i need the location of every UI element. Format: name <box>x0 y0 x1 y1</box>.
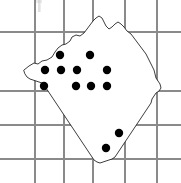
record-dot <box>102 144 110 152</box>
map-canvas <box>0 0 181 183</box>
record-dot <box>86 51 94 59</box>
record-dot <box>103 82 111 90</box>
record-dot <box>56 51 64 59</box>
record-dot <box>115 129 123 137</box>
record-dot <box>73 66 81 74</box>
record-dot <box>40 82 48 90</box>
record-dot <box>87 82 95 90</box>
top-smudge-artifact-cap <box>36 0 42 3</box>
record-dot <box>57 66 65 74</box>
record-dot <box>41 66 49 74</box>
distribution-map-figure <box>0 0 181 183</box>
record-dot <box>103 66 111 74</box>
record-dot <box>72 82 80 90</box>
